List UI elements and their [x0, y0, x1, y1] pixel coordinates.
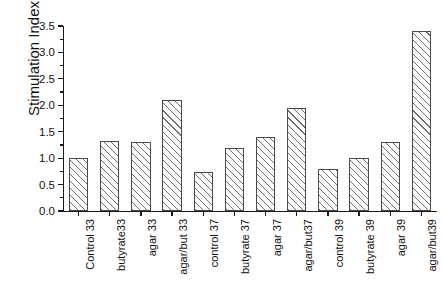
y-tick-label: 0.0: [39, 205, 55, 217]
y-tick-major: [58, 184, 63, 185]
x-tick-label: agar/but 33: [177, 219, 189, 275]
x-tick: [78, 211, 79, 216]
bar: [412, 31, 431, 211]
y-tick-major: [58, 210, 63, 211]
y-tick-minor: [60, 91, 63, 92]
bar: [131, 142, 150, 211]
x-tick: [358, 211, 359, 216]
y-tick-major: [58, 105, 63, 106]
y-tick-major: [58, 158, 63, 159]
bar: [349, 158, 368, 211]
x-tick-label: agar 39: [395, 219, 407, 256]
x-tick-label: agar 37: [271, 219, 283, 256]
y-tick-minor: [60, 65, 63, 66]
bar-chart-figure: GASTROINTESTINAL CELL LINES AS A MODEL F…: [0, 0, 443, 297]
x-tick: [234, 211, 235, 216]
x-axis-line: [63, 211, 437, 212]
y-tick-label: 3.5: [39, 20, 55, 32]
x-tick: [421, 211, 422, 216]
y-tick-label: 0.5: [39, 179, 55, 191]
y-tick-major: [58, 131, 63, 132]
chart-title: GASTROINTESTINAL CELL LINES AS A MODEL F…: [0, 0, 443, 2]
y-tick-minor: [60, 39, 63, 40]
bar: [381, 142, 400, 211]
bar: [69, 158, 88, 211]
bar: [225, 148, 244, 211]
bar: [162, 100, 181, 211]
y-tick-major: [58, 25, 63, 26]
bar: [194, 172, 213, 211]
x-tick: [327, 211, 328, 216]
x-tick: [171, 211, 172, 216]
x-tick-label: butyrate 37: [239, 219, 251, 274]
y-tick-minor: [60, 144, 63, 145]
x-tick-label: Control 33: [84, 219, 96, 270]
y-tick-minor: [60, 171, 63, 172]
y-axis-line: [63, 26, 64, 211]
x-tick: [390, 211, 391, 216]
x-tick: [140, 211, 141, 216]
plot-area: 0.00.51.01.52.02.53.03.5: [63, 26, 437, 211]
x-tick: [203, 211, 204, 216]
y-tick-label: 3.0: [39, 46, 55, 58]
y-tick-label: 2.5: [39, 73, 55, 85]
bar: [256, 137, 275, 211]
y-tick-label: 1.0: [39, 152, 55, 164]
y-tick-minor: [60, 197, 63, 198]
x-tick-label: agar/but39: [426, 219, 438, 272]
x-tick: [296, 211, 297, 216]
x-tick-label: butyrate33: [115, 219, 127, 271]
bar: [100, 141, 119, 211]
x-tick: [109, 211, 110, 216]
y-tick-label: 2.0: [39, 99, 55, 111]
bar: [318, 169, 337, 211]
y-tick-label: 1.5: [39, 126, 55, 138]
x-tick-label: control 37: [208, 219, 220, 267]
y-tick-major: [58, 52, 63, 53]
x-tick-label: agar 33: [146, 219, 158, 256]
x-tick-label: agar/but37: [302, 219, 314, 272]
x-tick: [265, 211, 266, 216]
x-tick-label: butyrate 39: [364, 219, 376, 274]
y-tick-major: [58, 78, 63, 79]
y-tick-minor: [60, 118, 63, 119]
bar: [287, 108, 306, 211]
x-tick-label: control 39: [333, 219, 345, 267]
